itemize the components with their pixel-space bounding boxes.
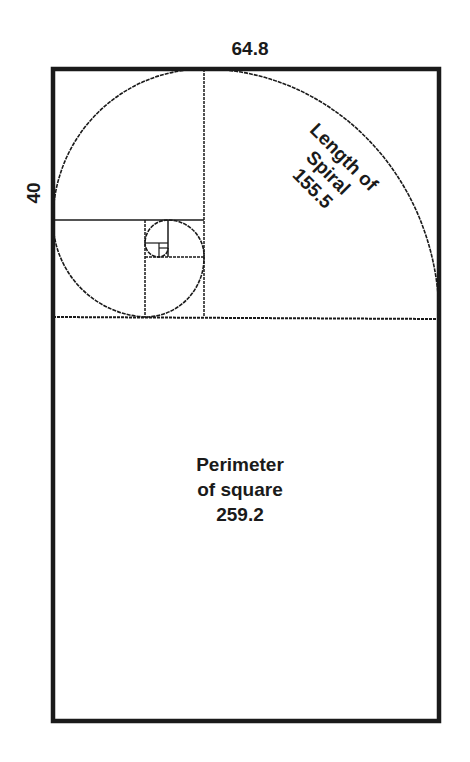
perimeter-label-line3: 259.2 bbox=[170, 502, 310, 527]
perimeter-label-line1: Perimeter bbox=[170, 452, 310, 477]
perimeter-label-line2: of square bbox=[170, 477, 310, 502]
perimeter-label: Perimeter of square 259.2 bbox=[170, 452, 310, 527]
outer-square bbox=[53, 69, 439, 721]
golden-rect-bottom bbox=[53, 317, 439, 319]
width-label: 64.8 bbox=[220, 38, 280, 60]
height-label: 40 bbox=[23, 173, 45, 213]
golden-spiral-diagram bbox=[0, 0, 470, 762]
